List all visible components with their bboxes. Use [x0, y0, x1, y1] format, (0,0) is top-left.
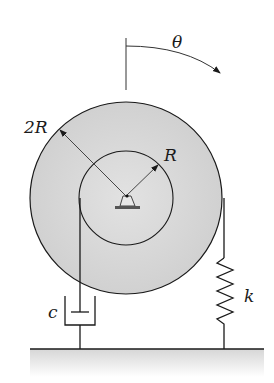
ground — [30, 349, 264, 377]
diagram-canvas: θ 2R R c k — [0, 0, 274, 383]
theta-label: θ — [172, 32, 182, 52]
angle-indicator: θ — [126, 32, 220, 90]
outer-radius-label: 2R — [23, 117, 48, 137]
ground-hatch — [30, 349, 264, 377]
damper-label: c — [48, 302, 58, 322]
spring-label: k — [244, 286, 254, 306]
spring-icon — [217, 258, 233, 349]
inner-radius-label: R — [163, 145, 177, 165]
spring-assembly: k — [217, 198, 254, 349]
